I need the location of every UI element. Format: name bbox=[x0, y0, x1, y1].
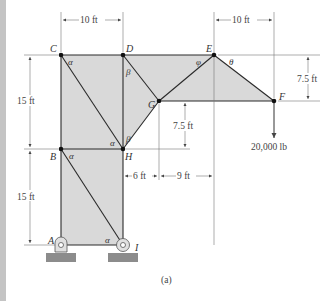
angle-beta-d: β bbox=[125, 67, 131, 77]
label-c: C bbox=[50, 43, 57, 54]
joint-f bbox=[272, 99, 277, 104]
angle-beta-h: β bbox=[125, 134, 131, 144]
label-e: E bbox=[205, 43, 212, 54]
joint-g bbox=[157, 99, 162, 104]
label-h: H bbox=[124, 151, 133, 162]
dim-gh-height: 7.5 ft bbox=[173, 121, 193, 131]
dim-ab-height: 15 ft bbox=[17, 192, 35, 202]
angle-alpha-b: α bbox=[69, 151, 74, 161]
angle-alpha-c: α bbox=[68, 57, 73, 67]
dim-bc-height: 15 ft bbox=[17, 96, 35, 106]
label-d: D bbox=[125, 43, 134, 54]
dim-cd-width: 10 ft bbox=[80, 15, 98, 25]
joint-d bbox=[121, 53, 126, 58]
ground-i bbox=[108, 253, 138, 262]
angle-theta: θ bbox=[229, 57, 234, 67]
angle-alpha-i: α bbox=[105, 235, 110, 245]
label-g: G bbox=[148, 99, 155, 110]
joint-e bbox=[212, 53, 217, 58]
dim-hg-horizontal: 6 ft bbox=[133, 171, 146, 181]
label-f: F bbox=[278, 91, 286, 102]
label-b: B bbox=[50, 151, 56, 162]
dim-ef-width: 10 ft bbox=[232, 15, 250, 25]
load-label: 20,000 lb bbox=[251, 142, 287, 152]
joint-b bbox=[59, 147, 64, 152]
dim-ef-height: 7.5 ft bbox=[297, 74, 317, 84]
joint-c bbox=[59, 53, 64, 58]
ground-a bbox=[46, 253, 76, 262]
label-i: I bbox=[134, 242, 139, 253]
truss-diagram: C D E F G B H A I α β β α α α φ θ 10 ft … bbox=[0, 0, 329, 301]
dim-ge-horizontal: 9 ft bbox=[177, 171, 190, 181]
angle-alpha-h: α bbox=[110, 138, 115, 148]
angle-phi: φ bbox=[196, 57, 201, 67]
label-a: A bbox=[47, 235, 55, 246]
figure-caption: (a) bbox=[161, 275, 172, 286]
truss-fill bbox=[61, 55, 274, 245]
